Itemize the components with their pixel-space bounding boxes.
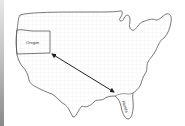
us-outline xyxy=(16,11,171,119)
us-map xyxy=(0,0,185,126)
oregon-label: Oregon xyxy=(26,40,39,45)
